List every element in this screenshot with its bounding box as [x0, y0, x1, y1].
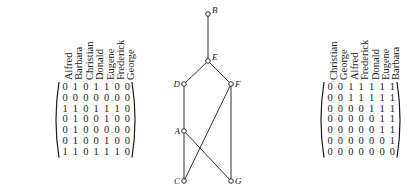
- matrix-parentheses: [0, 0, 410, 194]
